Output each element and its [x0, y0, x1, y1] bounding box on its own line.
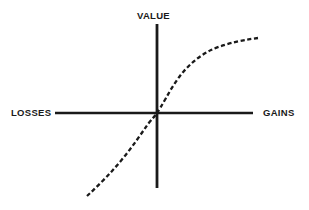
prospect-theory-value-function-figure: VALUE LOSSES GAINS	[0, 0, 309, 210]
value-function-curve	[87, 38, 258, 196]
x-axis-gains-label: GAINS	[263, 108, 295, 118]
y-axis-label: VALUE	[0, 11, 308, 21]
x-axis-losses-label: LOSSES	[11, 108, 51, 118]
chart-canvas	[0, 0, 309, 210]
